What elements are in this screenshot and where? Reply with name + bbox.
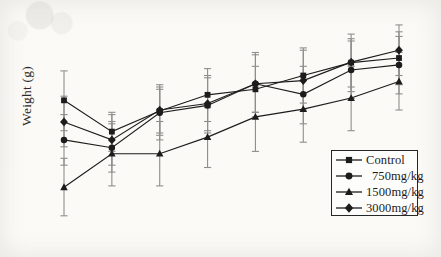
legend-item[interactable]: 3000mg/kg — [332, 200, 417, 216]
legend-label-3000: 3000mg/kg — [363, 201, 424, 216]
data-point — [396, 55, 402, 61]
data-point — [395, 46, 403, 55]
data-point — [395, 78, 403, 85]
legend-marker-square — [335, 153, 363, 167]
legend: Control 750mg/kg 1500mg/kg 3000mg/kg — [331, 150, 418, 216]
legend-item[interactable]: 750mg/kg — [332, 168, 417, 184]
legend-marker-diamond — [335, 201, 363, 215]
data-point — [348, 67, 354, 73]
data-point — [205, 92, 211, 98]
data-point — [396, 62, 402, 68]
legend-marker-circle — [335, 169, 363, 183]
legend-label-750: 750mg/kg — [363, 169, 424, 184]
data-point — [108, 136, 116, 145]
legend-label-1500: 1500mg/kg — [363, 185, 424, 200]
legend-item[interactable]: 1500mg/kg — [332, 184, 417, 200]
plot-area — [0, 0, 441, 257]
data-point — [61, 137, 67, 143]
data-point — [60, 118, 68, 127]
legend-marker-triangle — [335, 185, 363, 199]
legend-label-control: Control — [363, 153, 405, 168]
data-point — [109, 129, 115, 135]
data-point — [61, 97, 67, 103]
legend-item[interactable]: Control — [332, 152, 417, 168]
data-point — [60, 183, 68, 190]
data-point — [300, 91, 306, 97]
figure-canvas: Weight (g) Control 750mg/kg 1500mg/kg 30… — [0, 0, 441, 257]
